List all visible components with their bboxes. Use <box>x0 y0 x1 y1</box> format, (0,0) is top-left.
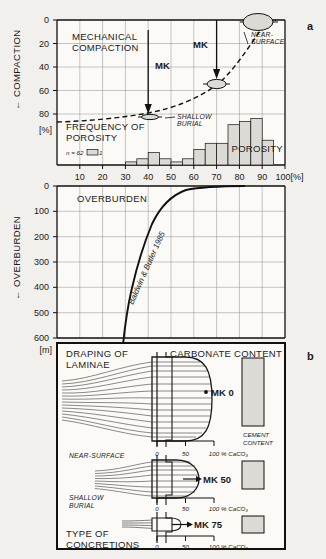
cement-swatch-mk50 <box>242 461 264 489</box>
panel-a-letter: a <box>307 20 314 32</box>
shallow-burial-label-line1: SHALLOW <box>177 113 212 120</box>
xtick-100: 100 <box>275 172 290 182</box>
mk50-stage-label-line1: SHALLOW <box>69 494 104 501</box>
figure-svg: 0 20 40 60 80 [%] ← COMPACTION MECHANICA… <box>0 0 326 559</box>
panel-a-ytick-0: 0 <box>44 15 49 25</box>
overburden-ytick-100: 100 <box>34 206 49 216</box>
panel-b-letter: b <box>307 350 314 362</box>
panel-a-freq-title-line2: POROSITY <box>66 132 118 143</box>
mk0-label: MK 0 <box>211 387 234 398</box>
scale-mk75-unit: % CaCO₃ <box>221 543 248 550</box>
histogram-bar <box>205 143 216 165</box>
overburden-ytick-200: 200 <box>34 232 49 242</box>
panel-a-freq-title-line1: FREQUENCY OF <box>66 121 145 132</box>
overburden-y-axis-title: ← OVERBURDEN <box>11 216 22 300</box>
concretion-body-mk0 <box>152 357 212 441</box>
panel-a-y-axis-title: ← COMPACTION <box>11 29 22 110</box>
near-surface-label-line1: NEAR- <box>251 31 274 38</box>
cement-swatch-mk0 <box>242 358 264 426</box>
mk0-marker-dot <box>204 390 208 394</box>
histogram-bar <box>125 162 136 165</box>
cement-content-label-line2: CONTENT <box>243 439 274 446</box>
scale-mk75-100: 100 <box>209 543 220 550</box>
overburden-y-unit: [m] <box>40 345 53 355</box>
scale-mk50-100: 100 <box>209 505 220 512</box>
mk50-stage-label-line2: BURIAL <box>69 502 95 509</box>
xtick-90: 90 <box>257 172 267 182</box>
panel-b-title-draping-line1: DRAPING OF <box>66 348 128 359</box>
xtick-70: 70 <box>212 172 222 182</box>
panel-b: DRAPING OF LAMINAE CARBONATE CONTENT b <box>57 343 314 550</box>
histogram-bar <box>194 150 205 166</box>
cement-swatch-mk75 <box>242 516 264 533</box>
panel-a-title-line1: MECHANICAL <box>72 31 137 42</box>
panel-a-legend-box <box>87 150 98 156</box>
histogram-bar <box>137 159 148 165</box>
overburden-ytick-500: 500 <box>34 308 49 318</box>
panel-a-ytick-20: 20 <box>39 39 49 49</box>
panel-a-ytick-80: 80 <box>39 109 49 119</box>
mk75-label: MK 75 <box>194 519 223 530</box>
panel-a-x-axis-title: POROSITY <box>232 143 284 154</box>
panel-a-title-line2: COMPACTION <box>72 42 139 53</box>
panel-b-title-draping-line2: LAMINAE <box>66 359 110 370</box>
overburden-ytick-0: 0 <box>44 181 49 191</box>
overburden-title: OVERBURDEN <box>77 193 147 204</box>
panel-a-legend-box-label: 1 <box>99 149 102 156</box>
cement-content-label-line1: CEMENT <box>243 431 270 438</box>
xtick-80: 80 <box>234 172 244 182</box>
xtick-20: 20 <box>98 172 108 182</box>
panel-a: 0 20 40 60 80 [%] ← COMPACTION MECHANICA… <box>11 14 314 183</box>
histogram-bar <box>148 153 159 165</box>
scale-mk50-0: 0 <box>155 505 159 512</box>
scale-mk0-100: 100 <box>209 450 220 457</box>
scale-mk0-50: 50 <box>182 450 189 457</box>
histogram-bar <box>160 159 171 165</box>
panel-a-n-label: n = 62 <box>66 149 84 156</box>
xtick-10: 10 <box>75 172 85 182</box>
panel-b-title-type-line1: TYPE OF <box>66 528 109 539</box>
mk-arrow-left-label: MK <box>155 60 170 71</box>
xtick-30: 30 <box>120 172 130 182</box>
panel-a-y-unit: [%] <box>39 125 52 135</box>
histogram-bar <box>182 159 193 165</box>
overburden-ytick-300: 300 <box>34 257 49 267</box>
mk50-label: MK 50 <box>203 474 231 485</box>
xtick-50: 50 <box>166 172 176 182</box>
histogram-bar <box>251 119 262 166</box>
near-surface-label-line2: SURFACE <box>251 38 285 45</box>
mk-arrow-right-label: MK <box>193 39 208 50</box>
shared-x-unit: [%] <box>290 172 303 182</box>
mk0-stage-label: NEAR-SURFACE <box>69 452 125 459</box>
shallow-burial-label-line2: BURIAL <box>177 120 203 127</box>
scale-mk75-0: 0 <box>155 543 159 550</box>
scale-mk50-unit: % CaCO₃ <box>221 505 248 512</box>
panel-a-ytick-40: 40 <box>39 62 49 72</box>
scale-mk75-50: 50 <box>182 543 189 550</box>
histogram-bar <box>171 162 182 165</box>
overburden-ytick-600: 600 <box>34 333 49 343</box>
overburden-ytick-400: 400 <box>34 282 49 292</box>
panel-a-ytick-60: 60 <box>39 86 49 96</box>
xtick-40: 40 <box>143 172 153 182</box>
panel-b-title-type-line2: CONCRETIONS <box>66 539 140 550</box>
scale-mk50-50: 50 <box>182 505 189 512</box>
figure-root: 0 20 40 60 80 [%] ← COMPACTION MECHANICA… <box>0 0 326 559</box>
scale-mk0-unit: % CaCO₃ <box>221 450 248 457</box>
xtick-60: 60 <box>189 172 199 182</box>
histogram-bar <box>217 143 228 165</box>
